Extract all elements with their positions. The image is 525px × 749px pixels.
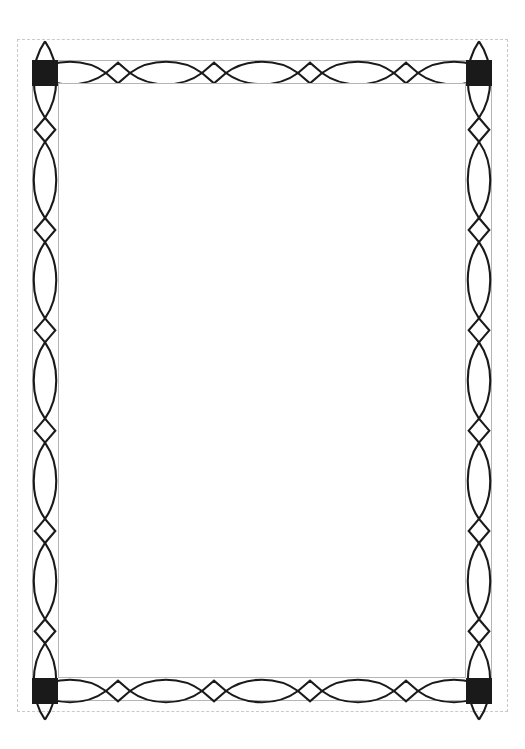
ornament-top-strand-b [34, 62, 490, 84]
blank-content-area [58, 83, 466, 678]
ornament-top-strand-a [34, 63, 490, 85]
ornament-bottom [34, 680, 490, 703]
document-page [0, 0, 525, 749]
ornament-right [468, 41, 491, 719]
ornament-bottom-strand-b [34, 680, 490, 702]
corner-block-bottom-left [32, 678, 58, 704]
corner-block-top-left [32, 60, 58, 86]
ornament-top [34, 62, 490, 85]
corner-block-top-right [466, 60, 492, 86]
ornament-bottom-strand-a [34, 681, 490, 703]
ornament-left-strand-b [35, 41, 57, 719]
ornament-left-strand-a [34, 41, 56, 719]
ornament-right-strand-b [469, 41, 491, 719]
ornament-left [34, 41, 57, 719]
corner-block-bottom-right [466, 678, 492, 704]
ornament-right-strand-a [468, 41, 490, 719]
